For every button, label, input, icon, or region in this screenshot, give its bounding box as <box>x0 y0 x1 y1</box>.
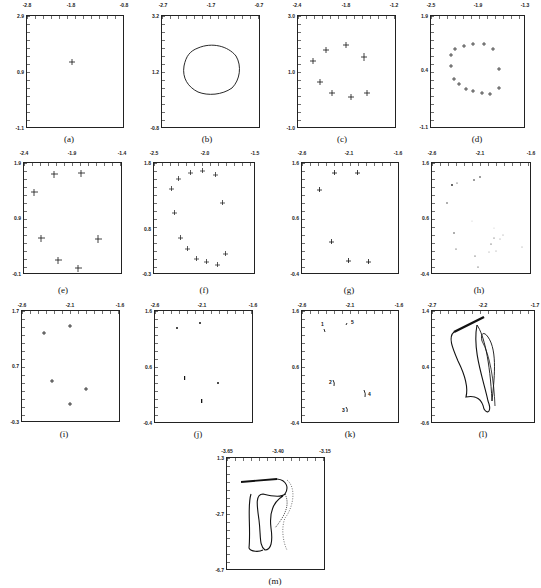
plot-area <box>431 16 526 129</box>
plot-frame <box>161 15 260 128</box>
orbit-label: 5 <box>351 319 354 325</box>
y-tick: 1.4 <box>422 308 431 314</box>
y-tick: 2.9 <box>17 13 26 19</box>
x-tick: -1.6 <box>394 150 403 156</box>
panel-k: -2.6 -2.1 -1.6 1 2 3 4 5 1.6 0.6 -0.4 (k… <box>270 300 405 445</box>
plot-frame: 1 2 3 4 5 <box>301 310 399 423</box>
y-tick: -0.4 <box>290 420 301 426</box>
y-tick: 0.9 <box>14 215 23 221</box>
x-tick: -2.2 <box>479 302 488 308</box>
panel-caption: (a) <box>64 134 74 144</box>
y-tick: 1.6 <box>422 160 431 166</box>
panel-d: -2.5 -1.9 -1.3 1.9 0.4 -1.1 (d) <box>405 0 541 145</box>
y-tick: 1.0 <box>288 69 297 75</box>
x-tick: -1.4 <box>118 150 127 156</box>
y-tick: 0.6 <box>292 215 301 221</box>
x-tick: -2.1 <box>345 150 354 156</box>
panel-caption: (k) <box>345 429 356 439</box>
panel-l: -2.7 -2.2 -1.7 1.4 0.4 -0.6 (l) <box>405 300 541 445</box>
y-tick: 0.4 <box>421 67 430 73</box>
y-tick: -6.7 <box>215 567 226 573</box>
panel-i: -2.6 -2.1 -1.6 1.7 0.7 -0.3 (i) <box>0 300 135 445</box>
panel-caption: (b) <box>202 134 213 144</box>
plot-area <box>162 16 261 129</box>
x-tick: -1.3 <box>521 2 530 8</box>
panel-g: -2.6 -2.1 -1.6 1.6 0.6 -0.4 (g) <box>270 148 405 298</box>
y-tick: 3.0 <box>288 13 297 19</box>
orbit-label: 1 <box>321 321 324 327</box>
x-tick: -2.6 <box>428 150 437 156</box>
x-tick: -1.6 <box>527 150 536 156</box>
panel-caption: (c) <box>337 134 347 144</box>
x-tick: -1.9 <box>68 150 77 156</box>
x-tick: -2.1 <box>346 302 355 308</box>
plot-area <box>22 311 121 423</box>
plot-area <box>302 163 400 275</box>
y-tick: 1.9 <box>421 13 430 19</box>
y-tick: 1.9 <box>14 160 23 166</box>
orbit-label: 2 <box>329 379 332 385</box>
x-tick: -1.6 <box>395 302 404 308</box>
y-tick: -0.4 <box>420 271 431 277</box>
y-tick: 0.4 <box>422 364 431 370</box>
panel-caption: (d) <box>472 134 483 144</box>
x-tick: -2.5 <box>427 2 436 8</box>
panel-m: -3.65 -3.40 -3.15 1.3 -2.7 -6.7 (m) <box>200 447 360 588</box>
x-tick: -2.7 <box>159 2 168 8</box>
panel-a: -2.8 -1.8 -0.8 2.9 0.9 -1.1 (a) <box>0 0 135 145</box>
y-tick: 1.3 <box>217 455 226 461</box>
x-tick: -2.6 <box>298 150 307 156</box>
panel-caption: (g) <box>344 285 355 295</box>
y-tick: 0.9 <box>17 69 26 75</box>
y-tick: 1.6 <box>292 308 301 314</box>
y-tick: 0.6 <box>292 364 301 370</box>
plot-frame <box>21 310 120 422</box>
plot-area <box>432 163 532 275</box>
plot-frame <box>297 15 396 128</box>
plot-frame <box>430 15 525 128</box>
plot-area <box>24 163 123 275</box>
panel-b: -2.7 -1.7 -0.7 3.2 1.2 -0.8 (b) <box>135 0 270 145</box>
x-tick: -0.7 <box>255 2 264 8</box>
x-tick: -1.5 <box>251 150 260 156</box>
y-tick: 1.7 <box>12 308 21 314</box>
y-tick: 1.2 <box>152 69 161 75</box>
plot-frame <box>153 162 255 274</box>
y-tick: -1.1 <box>419 124 430 130</box>
y-tick: -0.3 <box>142 271 153 277</box>
y-tick: 1.8 <box>144 160 153 166</box>
panel-h: -2.6 -2.1 -1.6 1.6 0.6 -0.4 (h) <box>405 148 541 298</box>
panel-f: -2.5 -2.0 -1.5 1.8 0.8 -0.3 (f) <box>135 148 270 298</box>
panel-caption: (i) <box>60 429 69 439</box>
y-tick: 3.2 <box>152 13 161 19</box>
y-tick: -1.1 <box>15 125 26 131</box>
panel-caption: (e) <box>58 285 68 295</box>
plot-area <box>27 16 125 129</box>
x-tick: -3.40 <box>272 448 283 454</box>
y-tick: 0.8 <box>144 226 153 232</box>
panel-c: -2.4 -1.8 -1.2 3.0 1.0 -1.0 (c) <box>270 0 405 145</box>
plot-frame <box>26 15 124 128</box>
y-tick: 1.6 <box>145 308 154 314</box>
panel-e: -2.4 -1.9 -1.4 1.9 0.9 -0.1 (e) <box>0 148 135 298</box>
y-tick: 0.6 <box>422 215 431 221</box>
panel-caption: (f) <box>200 285 209 295</box>
panel-caption: (h) <box>474 285 485 295</box>
x-tick: -1.6 <box>249 302 258 308</box>
plot-frame <box>226 457 325 570</box>
orbit-label: 4 <box>368 391 371 397</box>
y-tick: 1.6 <box>292 160 301 166</box>
x-tick: -2.1 <box>476 150 485 156</box>
plot-area <box>298 16 397 129</box>
x-tick: -2.4 <box>20 150 29 156</box>
panel-caption: (m) <box>269 576 282 586</box>
y-tick: -0.6 <box>420 420 431 426</box>
panel-caption: (l) <box>479 429 488 439</box>
orbit-label: 3 <box>342 407 345 413</box>
plot-frame <box>431 162 531 274</box>
plot-area <box>432 311 536 424</box>
x-tick: -1.9 <box>474 2 483 8</box>
x-tick: -0.8 <box>120 2 129 8</box>
x-tick: -1.6 <box>116 302 125 308</box>
plot-area <box>155 311 254 424</box>
